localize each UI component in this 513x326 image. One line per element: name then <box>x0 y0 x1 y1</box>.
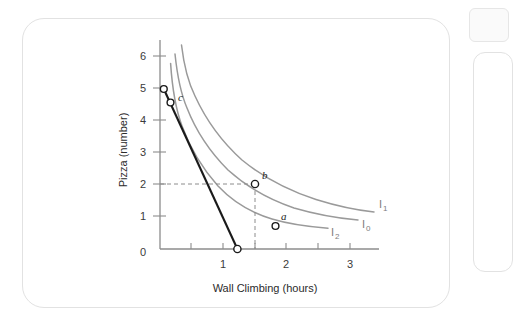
y-tick-label-1: 1 <box>140 210 146 222</box>
curve-labels: I 1 I 0 I 2 <box>331 198 388 241</box>
curve-I2 <box>171 63 328 228</box>
indifference-curves <box>171 45 374 228</box>
y-tick-label-5: 5 <box>140 82 146 94</box>
y-tick-label-4: 4 <box>140 114 146 126</box>
point-endpoint-bottom <box>234 245 241 252</box>
point-a <box>272 223 279 230</box>
x-axis-title: Wall Climbing (hours) <box>213 282 318 294</box>
y-axis-tick-labels: 6 5 4 3 2 1 0 <box>140 50 146 258</box>
x-axis-tick-labels: 1 2 3 <box>220 258 353 270</box>
point-endpoint-top <box>160 86 167 93</box>
point-label-c: c <box>178 91 183 103</box>
y-tick-label-6: 6 <box>140 50 146 62</box>
curve-label-I0-text: I <box>362 218 365 230</box>
y-tick-label-3: 3 <box>140 146 146 158</box>
point-b <box>251 180 258 187</box>
point-label-a: a <box>281 210 287 222</box>
x-tick-label-1: 1 <box>220 258 226 270</box>
x-tick-label-3: 3 <box>347 258 353 270</box>
curve-label-I1-sub: 1 <box>383 204 388 213</box>
y-axis-title: Pizza (number) <box>117 113 129 188</box>
curve-I1 <box>182 45 375 212</box>
y-tick-label-2: 2 <box>140 178 146 190</box>
point-label-b: b <box>262 169 268 181</box>
point-c <box>167 99 174 106</box>
curve-label-I1: I 1 <box>379 198 388 213</box>
curve-label-I2-sub: 2 <box>335 232 340 241</box>
curve-label-I2-text: I <box>331 226 334 238</box>
curve-label-I0: I 0 <box>362 218 371 233</box>
curve-I0 <box>175 54 358 220</box>
guide-lines <box>160 184 255 249</box>
y-tick-label-0: 0 <box>140 246 146 258</box>
curve-label-I2: I 2 <box>331 226 340 241</box>
curve-label-I1-text: I <box>379 198 382 210</box>
x-axis-ticks <box>191 243 350 249</box>
curve-label-I0-sub: 0 <box>366 224 371 233</box>
x-tick-label-2: 2 <box>283 258 289 270</box>
